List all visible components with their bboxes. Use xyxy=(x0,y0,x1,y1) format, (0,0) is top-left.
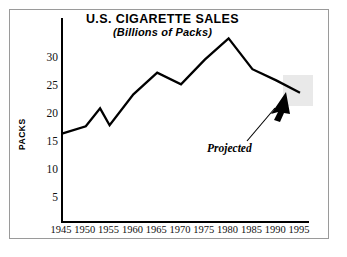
chart-screenshot: U.S. CIGARETTE SALES (Billions of Packs)… xyxy=(0,0,347,257)
projected-annotation-label: Projected xyxy=(207,142,252,154)
data-series-line xyxy=(62,38,300,133)
callout-leader-line xyxy=(247,108,275,141)
callout-arrow-icon xyxy=(271,92,290,122)
series-overlay xyxy=(0,0,347,257)
